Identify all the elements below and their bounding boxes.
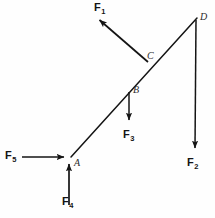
force-label-F5: F5	[5, 150, 16, 161]
free-body-diagram: F1 F2 F3 F4 F5 A B C D	[0, 0, 215, 218]
diagram-canvas	[0, 0, 215, 218]
point-label-D: D	[200, 12, 207, 22]
point-label-C: C	[147, 51, 154, 61]
force-label-F2: F2	[187, 157, 198, 168]
force-vector-F1	[100, 20, 149, 62]
point-label-A: A	[74, 158, 80, 168]
point-label-B: B	[133, 85, 139, 95]
force-label-F4: F4	[62, 196, 73, 207]
force-vector-F2	[195, 20, 196, 148]
force-label-F1: F1	[94, 2, 105, 13]
force-label-F3: F3	[123, 129, 134, 140]
